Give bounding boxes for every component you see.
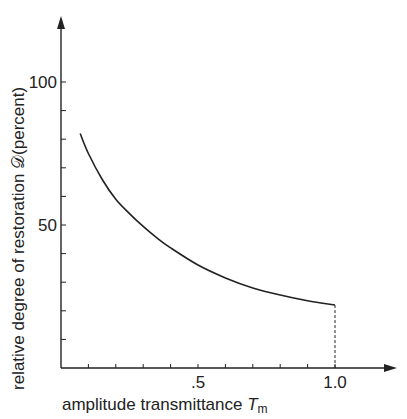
x-axis-arrow-icon — [384, 364, 397, 372]
chart: 50100.51.0 relative degree of restoratio… — [0, 0, 407, 419]
y-axis-arrow-icon — [57, 16, 65, 29]
restoration-curve — [80, 133, 335, 305]
y-axis — [57, 16, 66, 368]
x-axis-label: amplitude transmittance Tm — [62, 395, 268, 416]
x-tick-label: 1.0 — [323, 373, 347, 392]
x-tick-label: .5 — [191, 373, 205, 392]
tick-labels: 50100.51.0 — [29, 73, 347, 392]
x-axis — [61, 364, 397, 372]
y-axis-label: relative degree of restoration 𝒟(percent… — [9, 87, 28, 390]
y-tick-label: 50 — [38, 216, 57, 235]
y-tick-label: 100 — [29, 73, 57, 92]
